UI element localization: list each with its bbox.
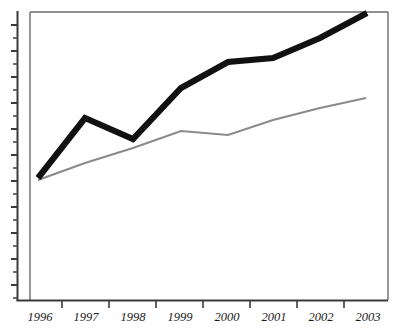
- series-primary-black: [38, 13, 367, 178]
- x-tick-label-2000: 2000: [215, 310, 241, 324]
- x-tick-label-2002: 2002: [309, 310, 334, 324]
- series-secondary-gray: [38, 98, 366, 180]
- x-axis-labels: 1996 1997 1998 1999 2000 2001 2002 2003: [28, 310, 381, 324]
- gray-trend-line: [38, 98, 366, 180]
- x-tick-label-1999: 1999: [168, 310, 194, 324]
- line-chart: 1996 1997 1998 1999 2000 2001 2002 2003: [0, 0, 405, 334]
- plot-frame: [30, 12, 388, 300]
- chart-canvas: 1996 1997 1998 1999 2000 2001 2002 2003: [0, 0, 405, 334]
- x-tick-label-2003: 2003: [356, 310, 381, 324]
- y-axis: [11, 11, 18, 301]
- x-tick-label-1998: 1998: [121, 310, 147, 324]
- x-tick-label-2001: 2001: [262, 310, 287, 324]
- black-trend-line: [38, 13, 367, 178]
- x-tick-label-1996: 1996: [28, 310, 54, 324]
- x-tick-label-1997: 1997: [74, 310, 100, 324]
- x-axis: [17, 300, 389, 308]
